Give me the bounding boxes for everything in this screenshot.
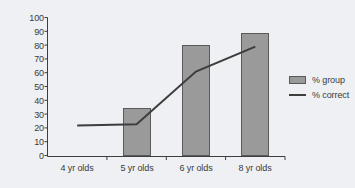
y-tick-label: 50: [22, 83, 44, 92]
bar-5-yr-olds: [123, 108, 151, 156]
y-tick-label: 70: [22, 55, 44, 64]
y-tick-label: 90: [22, 28, 44, 37]
y-tick-label: 60: [22, 69, 44, 78]
chart-container: 100 90 80 70 60 50 40 30 20 10 0: [0, 0, 355, 188]
bar-swatch-icon: [289, 76, 306, 84]
bar-8-yr-olds: [241, 33, 269, 156]
legend-label-correct: % correct: [312, 91, 349, 100]
y-tick-label: 20: [22, 124, 44, 133]
y-tick-label: 0: [22, 152, 44, 161]
y-tick-label: 40: [22, 97, 44, 106]
y-tick-label: 30: [22, 111, 44, 120]
legend-label-group: % group: [312, 76, 345, 85]
y-tick-label: 100: [22, 14, 44, 23]
x-tick-label-6-yr-olds: 6 yr olds: [166, 164, 226, 173]
bar-6-yr-olds: [182, 45, 210, 156]
x-tick-label-8-yr-olds: 8 yr olds: [225, 164, 285, 173]
y-tick-label: 10: [22, 138, 44, 147]
x-tick-label-5-yr-olds: 5 yr olds: [107, 164, 167, 173]
line-swatch-icon: [289, 94, 306, 96]
x-tick-label-4-yr-olds: 4 yr olds: [47, 164, 107, 173]
y-tick-label: 80: [22, 42, 44, 51]
